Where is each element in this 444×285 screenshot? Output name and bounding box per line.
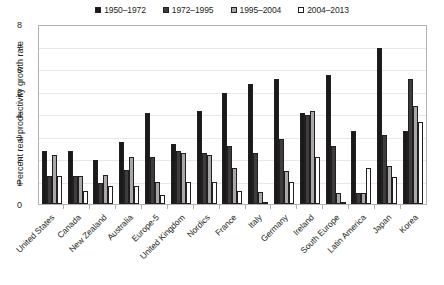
bar <box>212 182 217 204</box>
legend-swatch-icon <box>95 7 101 13</box>
x-axis-label-slot: France <box>220 209 246 285</box>
bar-group <box>91 26 117 204</box>
y-axis-tick-label: 7 <box>0 43 22 52</box>
y-axis-tick-label: 1 <box>0 178 22 187</box>
bar <box>263 202 268 204</box>
bar-groups <box>39 26 426 204</box>
bar <box>160 195 165 204</box>
legend-swatch-icon <box>298 7 304 13</box>
x-axis-label-slot: Latin America <box>349 209 375 285</box>
x-axis-label-slot: Germany <box>271 209 297 285</box>
bar <box>289 182 294 204</box>
bar <box>315 157 320 204</box>
bar <box>108 186 113 204</box>
bar <box>418 122 423 204</box>
bar-group <box>194 26 220 204</box>
bar-group <box>220 26 246 204</box>
bar-group <box>142 26 168 204</box>
bar <box>134 186 139 204</box>
bar <box>83 191 88 204</box>
bar-group <box>65 26 91 204</box>
y-axis-tick-label: 5 <box>0 88 22 97</box>
bar-group <box>400 26 426 204</box>
legend-item: 1950–1972 <box>95 5 146 15</box>
x-axis-label-slot: New Zealand <box>90 209 116 285</box>
legend-label: 1950–1972 <box>104 5 146 15</box>
bar <box>392 177 397 204</box>
legend-label: 1995–2004 <box>240 5 282 15</box>
legend-item: 2004–2013 <box>298 5 349 15</box>
bar-group <box>168 26 194 204</box>
legend-swatch-icon <box>231 7 237 13</box>
bar-group <box>39 26 65 204</box>
bar-group <box>271 26 297 204</box>
bar <box>366 168 371 204</box>
chart-legend: 1950–19721972–19951995–20042004–2013 <box>0 5 444 15</box>
x-axis-label-slot: United States <box>38 209 64 285</box>
legend-label: 1972–1995 <box>172 5 214 15</box>
bar-group <box>297 26 323 204</box>
y-axis-tick-label: 8 <box>0 21 22 30</box>
y-axis-tick-label: 2 <box>0 156 22 165</box>
x-axis-category-labels: United StatesCanadaNew ZealandAustraliaE… <box>38 209 427 285</box>
bar-group <box>323 26 349 204</box>
legend-item: 1995–2004 <box>231 5 282 15</box>
x-axis-label-slot: Korea <box>401 209 427 285</box>
legend-item: 1972–1995 <box>163 5 214 15</box>
x-axis-category-label: Korea <box>397 212 420 235</box>
bar <box>57 176 62 204</box>
x-axis-label-slot: Nordics <box>194 209 220 285</box>
bar-group <box>349 26 375 204</box>
x-axis-category-label: United States <box>14 212 56 254</box>
bar <box>341 202 346 204</box>
x-axis-label-slot: Italy <box>246 209 272 285</box>
y-axis-tick-label: 4 <box>0 111 22 120</box>
bar-group <box>374 26 400 204</box>
x-axis-category-label: Italy <box>246 212 264 230</box>
x-axis-label-slot: Australia <box>116 209 142 285</box>
bar-group <box>116 26 142 204</box>
chart-figure: 1950–19721972–19951995–20042004–2013 Per… <box>0 0 444 285</box>
y-axis-tick-label: 3 <box>0 133 22 142</box>
x-axis-label-slot: United Kingdom <box>168 209 194 285</box>
bar-group <box>245 26 271 204</box>
legend-swatch-icon <box>163 7 169 13</box>
x-axis-label-slot: Japan <box>375 209 401 285</box>
bar <box>237 191 242 204</box>
y-axis-tick-label: 6 <box>0 66 22 75</box>
y-axis-tick-label: 0 <box>0 201 22 210</box>
legend-label: 2004–2013 <box>307 5 349 15</box>
bar <box>186 182 191 204</box>
